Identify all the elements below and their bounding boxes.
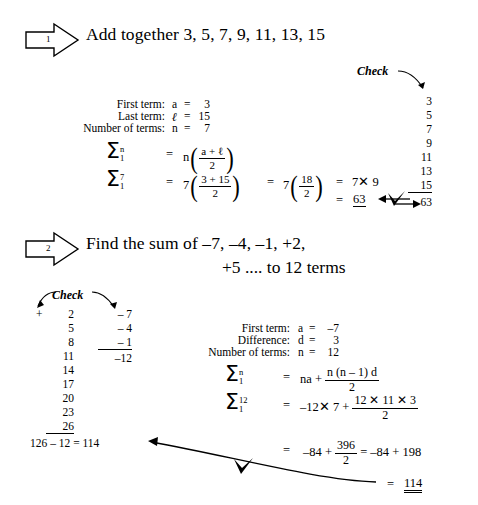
problem-1-check-term: 11 xyxy=(408,151,432,163)
problem-1-given-label-0: First term: xyxy=(40,98,165,110)
problem-2-eq-2: = xyxy=(283,398,290,413)
general-numerator: n (n – 1) d xyxy=(325,366,379,381)
problem-2-given-value-1: 3 xyxy=(317,334,339,346)
problem-1-arrow-bullet: 1 xyxy=(24,22,80,58)
step2-denominator: 2 xyxy=(299,187,314,200)
problem-1-given-value-1: 15 xyxy=(192,110,210,122)
problem-2-answer: 114 xyxy=(404,477,422,493)
sigma-lower: 1 xyxy=(239,405,248,414)
sigma-icon: Σ xyxy=(106,138,120,163)
problem-1-sub-expr: 7(3 + 152) xyxy=(183,171,241,201)
problem-2-pos-term: 5 xyxy=(46,322,74,334)
problem-1-check-term: 3 xyxy=(408,95,432,107)
problem-2-general-expr: na + n (n – 1) d2 xyxy=(300,366,379,395)
paren-open: ( xyxy=(291,171,299,201)
problem-2-given-symbol-0: a xyxy=(298,322,303,334)
general-denominator: 2 xyxy=(199,159,225,172)
problem-2-number: 2 xyxy=(46,243,51,253)
problem-1-eq-2: = xyxy=(166,175,173,190)
problem-2-given-label-1: Difference: xyxy=(160,334,290,346)
problem-2-title: Find the sum of –7, –4, –1, +2, xyxy=(86,233,306,254)
problem-2-given-label-2: Number of terms: xyxy=(160,346,290,358)
problem-1-eq-1: = xyxy=(166,147,173,162)
problem-2-eq-4: = xyxy=(387,477,394,492)
problem-2-given-eq-1: = xyxy=(309,334,316,346)
general-lead: n xyxy=(183,150,189,164)
problem-1-step3: 7✕ 9 xyxy=(352,174,379,190)
problem-1-check-label: Check xyxy=(357,64,388,79)
problem-2-given-symbol-2: n xyxy=(298,346,304,358)
problem-2-sigma-general: Σn1 xyxy=(225,363,243,386)
problem-1-check-term: 7 xyxy=(408,123,432,135)
problem-2-neg-term: – 4 xyxy=(98,322,132,334)
sigma-lower: 1 xyxy=(239,377,243,386)
problem-1-given-value-0: 3 xyxy=(192,98,210,110)
problem-1-check-term: 9 xyxy=(408,137,432,149)
problem-2-given-value-0: –7 xyxy=(317,322,339,334)
problem-2-title-continued: +5 .... to 12 terms xyxy=(222,257,346,278)
problem-1-check-tick-icon xyxy=(386,190,408,210)
problem-1-eq-5: = xyxy=(336,193,343,208)
problem-2-pos-term: 23 xyxy=(46,406,74,418)
problem-1-sigma-general: Σn1 xyxy=(106,140,124,163)
sigma-icon: Σ xyxy=(225,361,239,386)
block-arrow-icon xyxy=(24,231,80,267)
problem-1-check-term: 13 xyxy=(408,165,432,177)
problem-1-check-term: 5 xyxy=(408,109,432,121)
sigma-icon: Σ xyxy=(106,166,120,191)
problem-2-pos-term: 8 xyxy=(46,336,74,348)
problem-2-arrow-bullet: 2 xyxy=(24,231,80,267)
paren-close: ) xyxy=(233,171,241,201)
problem-1-given-value-2: 7 xyxy=(192,122,210,134)
sigma-lower: 1 xyxy=(120,154,124,163)
problem-1-given-label-1: Last term: xyxy=(40,110,165,122)
problem-1-given-eq-0: = xyxy=(184,98,191,110)
problem-2-answer-wrap: 114 xyxy=(404,476,422,493)
problem-1-title: Add together 3, 5, 7, 9, 11, 13, 15 xyxy=(86,24,325,45)
worksheet-page: 1 Add together 3, 5, 7, 9, 11, 13, 15 Ch… xyxy=(0,0,478,505)
problem-2-eq-1: = xyxy=(283,370,290,385)
problem-2-check-result: 126 – 12 = 114 xyxy=(30,437,99,449)
problem-1-given-eq-2: = xyxy=(184,122,191,134)
problem-2-sub-expr: –12✕ 7 + 12 ✕ 11 ✕ 32 xyxy=(300,394,418,423)
problem-2-neg-term: – 1 xyxy=(98,336,132,350)
sigma-icon: Σ xyxy=(225,389,239,414)
problem-2-given-symbol-1: d xyxy=(298,334,304,346)
problem-2-pos-term: 11 xyxy=(46,350,74,362)
sub-denominator: 2 xyxy=(352,409,418,423)
problem-1-eq-4: = xyxy=(336,175,343,190)
problem-2-pos-term: 2 xyxy=(46,308,74,320)
problem-2-pos-term: 20 xyxy=(46,392,74,404)
problem-2-neg-term: – 7 xyxy=(98,308,132,320)
problem-2-given-label-0: First term: xyxy=(160,322,290,334)
problem-1-answer-wrap: 63 xyxy=(353,192,366,207)
sub-lead: 7 xyxy=(183,178,189,192)
problem-2-pos-term: 26 xyxy=(46,420,74,434)
general-numerator: a + ℓ xyxy=(199,145,225,159)
general-lead: na + xyxy=(300,372,322,386)
problem-1-eq-3: = xyxy=(267,175,274,190)
problem-1-number: 1 xyxy=(46,34,51,44)
paren-open: ( xyxy=(191,171,199,201)
problem-1-answer: 63 xyxy=(353,193,366,207)
problem-1-given-label-2: Number of terms: xyxy=(40,122,165,134)
sub-numerator: 3 + 15 xyxy=(199,173,231,187)
problem-2-given-eq-0: = xyxy=(309,322,316,334)
problem-1-given-symbol-0: a xyxy=(172,98,177,110)
step2-lead: 7 xyxy=(283,178,289,192)
sub-lead: –12✕ 7 + xyxy=(300,400,349,414)
paren-close: ) xyxy=(316,171,324,201)
sigma-lower: 1 xyxy=(120,182,124,191)
problem-2-given-eq-2: = xyxy=(309,346,316,358)
block-arrow-icon xyxy=(24,22,80,58)
problem-2-given-value-2: 12 xyxy=(317,346,339,358)
problem-1-step2-expr: 7(182) xyxy=(283,171,324,201)
problem-1-sigma-value: Σ71 xyxy=(106,168,124,191)
sub-denominator: 2 xyxy=(199,187,231,200)
problem-2-pos-term: 17 xyxy=(46,378,74,390)
problem-2-neg-total: –12 xyxy=(98,352,132,364)
problem-2-plus-sign: + xyxy=(36,308,43,320)
sub-numerator: 12 ✕ 11 ✕ 3 xyxy=(352,394,418,409)
problem-2-check-tick-icon xyxy=(232,457,256,479)
problem-1-given-eq-1: = xyxy=(184,110,191,122)
